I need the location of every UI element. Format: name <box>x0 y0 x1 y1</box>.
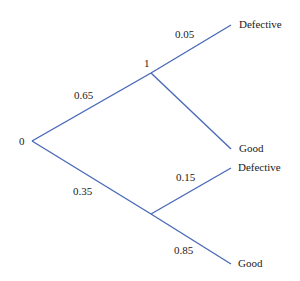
probability-lower-defective: 0.15 <box>176 171 196 183</box>
probability-root-upper: 0.65 <box>74 89 94 101</box>
probability-lower-good: 0.85 <box>174 244 194 256</box>
tree-diagram: 0 1 0.65 0.35 0.05 0.15 0.85 Defective G… <box>0 0 300 281</box>
probability-upper-defective: 0.05 <box>175 28 195 40</box>
leaf-lower-defective: Defective <box>238 161 281 173</box>
tree-diagram-canvas: 0 1 0.65 0.35 0.05 0.15 0.85 Defective G… <box>0 0 300 281</box>
probability-root-lower: 0.35 <box>73 185 93 197</box>
edge-root-to-lower-node <box>32 141 151 214</box>
leaf-upper-defective: Defective <box>239 18 282 30</box>
leaf-upper-good: Good <box>239 142 264 154</box>
edge-lower-to-good <box>151 214 231 264</box>
edge-root-to-node-1 <box>32 73 151 141</box>
root-node-label: 0 <box>19 135 25 147</box>
leaf-lower-good: Good <box>238 257 263 269</box>
node-1-label: 1 <box>144 57 150 69</box>
edge-node-1-to-good <box>151 73 231 149</box>
